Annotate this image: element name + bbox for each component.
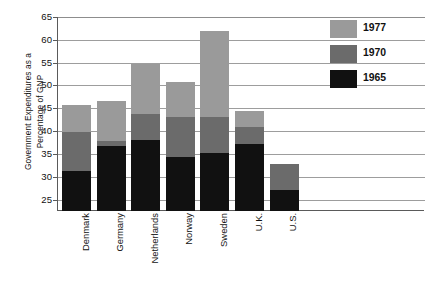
bar-group[interactable] [131, 17, 160, 211]
legend-item[interactable]: 1977 [330, 19, 425, 40]
bar-group[interactable] [97, 17, 126, 211]
x-axis-tick-label: Sweden [218, 213, 229, 247]
bar-segment[interactable] [235, 144, 264, 211]
bar-segment[interactable] [62, 171, 91, 211]
bar-segment[interactable] [166, 157, 195, 211]
chart-container: Government Expenditures as a Percentage … [0, 0, 435, 307]
y-axis-tick-label: 60 [26, 34, 52, 45]
bar-segment[interactable] [270, 190, 299, 211]
x-axis-tick-label: Netherlands [149, 213, 160, 264]
y-axis-tick-mark [53, 63, 57, 64]
legend-label: 1965 [363, 72, 386, 83]
y-axis-tick-label: 65 [26, 11, 52, 22]
bar-segment[interactable] [200, 153, 229, 211]
x-axis-tick-label: U.S. [287, 213, 298, 231]
y-axis-tick-mark [53, 200, 57, 201]
y-axis-tick-mark [53, 108, 57, 109]
y-axis-tick-label: 35 [26, 148, 52, 159]
y-axis-tick-mark [53, 154, 57, 155]
legend-swatch [330, 20, 357, 38]
y-axis-tick-label: 25 [26, 194, 52, 205]
y-axis-tick-mark [53, 40, 57, 41]
x-axis-tick-label: Denmark [80, 213, 91, 251]
bar-group[interactable] [62, 17, 91, 211]
legend-swatch [330, 70, 357, 88]
chart-legend: 197719701965 [330, 19, 425, 94]
x-axis-tick-label: Norway [183, 213, 194, 245]
bar-group[interactable] [270, 17, 299, 211]
x-axis-tick-label: Germany [114, 213, 125, 252]
legend-item[interactable]: 1965 [330, 69, 425, 90]
x-axis-tick-label: U.K. [253, 213, 264, 231]
legend-item[interactable]: 1970 [330, 44, 425, 65]
bar-group[interactable] [166, 17, 195, 211]
y-axis-tick-label: 55 [26, 57, 52, 68]
bar-segment[interactable] [131, 140, 160, 211]
bar-group[interactable] [200, 17, 229, 211]
bar-group[interactable] [235, 17, 264, 211]
y-axis-tick-mark [53, 85, 57, 86]
bar-segment[interactable] [97, 146, 126, 211]
y-axis-tick-mark [53, 177, 57, 178]
y-axis-tick-label: 30 [26, 171, 52, 182]
legend-swatch [330, 45, 357, 63]
y-axis-tick-label: 40 [26, 125, 52, 136]
legend-label: 1977 [363, 22, 386, 33]
x-axis-ticks: DenmarkGermanyNetherlandsNorwaySwedenU.K… [57, 213, 424, 307]
y-axis-tick-label: 50 [26, 79, 52, 90]
y-axis-tick-mark [53, 131, 57, 132]
legend-label: 1970 [363, 47, 386, 58]
y-axis-tick-label: 45 [26, 102, 52, 113]
y-axis-tick-mark [53, 17, 57, 18]
